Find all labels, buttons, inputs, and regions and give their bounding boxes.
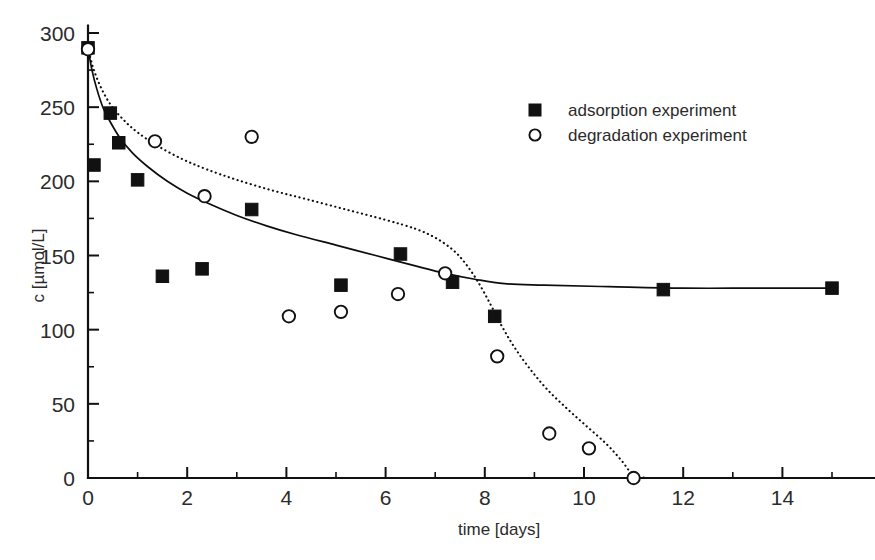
x-tick-label: 12 — [672, 486, 695, 509]
legend-label-degradation: degradation experiment — [568, 126, 747, 145]
data-point-circle — [82, 43, 94, 55]
legend-filled-square-marker — [529, 104, 541, 116]
y-tick-label: 200 — [40, 170, 75, 193]
y-tick-label: 0 — [63, 467, 75, 490]
legend-label-adsorption: adsorption experiment — [568, 101, 736, 120]
data-point-circle — [627, 472, 639, 484]
data-point-square — [156, 270, 169, 283]
data-point-square — [104, 107, 117, 120]
y-tick-label: 300 — [40, 22, 75, 45]
y-axis-title: c [µmol/L] — [29, 228, 48, 302]
data-point-square — [657, 283, 670, 296]
figure-container: 02468101214 050100150200250300 time [day… — [0, 0, 875, 560]
data-point-square — [488, 310, 501, 323]
y-axis-ticks — [88, 33, 99, 478]
y-tick-label: 50 — [52, 393, 75, 416]
series-degradation — [82, 43, 640, 484]
data-point-circle — [245, 131, 257, 143]
legend: adsorption experiment degradation experi… — [529, 101, 747, 145]
x-tick-label: 6 — [380, 486, 392, 509]
y-tick-label: 250 — [40, 96, 75, 119]
data-point-square — [335, 279, 348, 292]
data-point-square — [131, 174, 144, 187]
x-tick-label: 8 — [479, 486, 491, 509]
data-point-circle — [149, 135, 161, 147]
data-point-square — [113, 137, 126, 150]
data-point-circle — [543, 427, 555, 439]
adsorption-fit-curve — [88, 48, 832, 288]
x-tick-label: 14 — [771, 486, 795, 509]
data-point-square — [394, 248, 407, 261]
data-point-circle — [439, 267, 451, 279]
data-point-circle — [283, 310, 295, 322]
x-tick-label: 0 — [82, 486, 94, 509]
degradation-fit-curve — [88, 48, 648, 478]
data-point-circle — [335, 306, 347, 318]
x-axis-ticks — [88, 467, 832, 478]
x-tick-label: 10 — [572, 486, 595, 509]
data-point-circle — [583, 442, 595, 454]
x-axis-tick-labels: 02468101214 — [82, 486, 794, 509]
data-point-square — [88, 159, 101, 172]
y-tick-label: 100 — [40, 319, 75, 342]
data-point-circle — [198, 190, 210, 202]
x-axis-title: time [days] — [458, 520, 540, 539]
data-point-square — [245, 203, 258, 216]
data-point-circle — [392, 288, 404, 300]
chart-canvas: 02468101214 050100150200250300 time [day… — [0, 0, 875, 560]
axes-group: 02468101214 050100150200250300 — [40, 22, 874, 509]
data-point-square — [196, 263, 209, 276]
x-tick-label: 4 — [281, 486, 293, 509]
data-point-circle — [491, 350, 503, 362]
legend-open-circle-marker — [529, 129, 540, 140]
data-point-square — [826, 282, 839, 295]
x-tick-label: 2 — [181, 486, 193, 509]
series-adsorption — [82, 42, 839, 323]
